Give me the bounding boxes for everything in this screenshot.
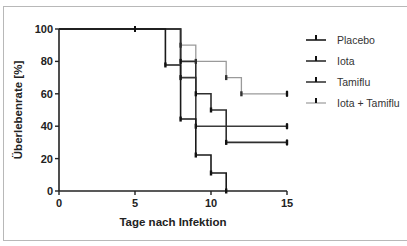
y-tick-label: 60 xyxy=(41,88,53,100)
y-tick-label: 40 xyxy=(41,120,53,132)
x-tick-label: 10 xyxy=(205,197,217,209)
legend-item: Placebo xyxy=(306,34,375,46)
legend-item: Tamiflu xyxy=(306,76,370,88)
series-tamiflu xyxy=(59,29,288,129)
legend-label: Iota xyxy=(337,55,355,67)
series-placebo xyxy=(59,26,227,194)
legend-label: Iota + Tamiflu xyxy=(337,97,400,109)
series-iota xyxy=(59,29,288,145)
y-axis: 020406080100 xyxy=(35,23,59,197)
legend-label: Placebo xyxy=(337,34,375,46)
x-tick-label: 0 xyxy=(56,197,62,209)
series-layer xyxy=(59,26,288,194)
y-axis-title: Überlebenrate [%] xyxy=(12,61,24,160)
x-axis: 051015 xyxy=(56,191,293,209)
series-iota-tamiflu xyxy=(59,29,288,97)
y-tick-label: 80 xyxy=(41,55,53,67)
y-tick-label: 100 xyxy=(35,23,53,35)
y-tick-label: 0 xyxy=(47,185,53,197)
legend-label: Tamiflu xyxy=(337,76,370,88)
x-axis-title: Tage nach Infektion xyxy=(119,216,226,228)
legend-item: Iota xyxy=(306,55,355,67)
x-tick-label: 15 xyxy=(281,197,293,209)
y-tick-label: 20 xyxy=(41,153,53,165)
legend: PlaceboIotaTamifluIota + Tamiflu xyxy=(306,34,400,109)
legend-item: Iota + Tamiflu xyxy=(306,97,400,109)
x-tick-label: 5 xyxy=(132,197,138,209)
